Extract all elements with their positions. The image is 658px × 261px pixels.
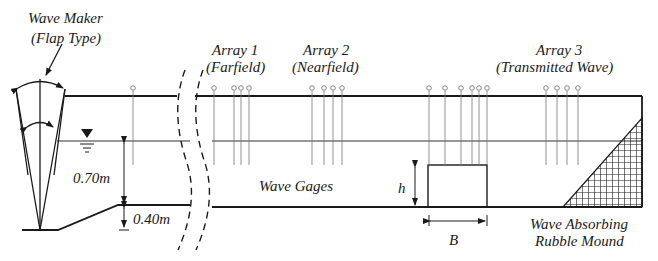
wave-gage-icon [544, 86, 549, 91]
dimension-b [429, 215, 487, 226]
submerged-structure [428, 165, 487, 207]
label-absorber-2: Rubble Mound [535, 233, 624, 249]
wave-gages [131, 86, 581, 165]
label-wave-gages: Wave Gages [259, 178, 333, 194]
tank-outline [22, 96, 642, 230]
wave-maker-icon [16, 44, 65, 230]
label-h: h [398, 180, 406, 196]
wave-gage-icon [212, 86, 217, 91]
wave-gage-icon [576, 86, 581, 91]
dimension-water-depth [119, 143, 129, 230]
wave-gage-icon [477, 86, 482, 91]
wave-gage-icon [459, 86, 464, 91]
wave-gage-icon [485, 86, 490, 91]
wave-gage-icon [239, 86, 244, 91]
label-array1-1: Array 1 [212, 42, 258, 58]
wave-gage-icon [443, 86, 448, 91]
label-step-height: 0.40m [133, 211, 170, 227]
label-wave-maker-1: Wave Maker [28, 10, 103, 26]
label-b: B [449, 232, 458, 248]
label-array3-2: (Transmitted Wave) [496, 59, 613, 75]
wave-gage-icon [340, 86, 345, 91]
label-water-depth: 0.70m [73, 170, 110, 186]
wave-gage-icon [427, 86, 432, 91]
break-lines [178, 70, 210, 250]
label-array2-1: Array 2 [303, 42, 349, 58]
wave-gage-icon [310, 86, 315, 91]
label-absorber-1: Wave Absorbing [530, 216, 628, 232]
label-array3-1: Array 3 [536, 42, 582, 58]
label-array2-2: (Nearfield) [292, 59, 359, 75]
wave-gage-icon [555, 86, 560, 91]
wave-gage-icon [131, 86, 136, 91]
wave-gage-icon [331, 86, 336, 91]
wave-gage-icon [232, 86, 237, 91]
rubble-mound [563, 118, 642, 207]
wave-gage-icon [247, 86, 252, 91]
wave-gage-icon [322, 86, 327, 91]
label-wave-maker-2: (Flap Type) [31, 30, 101, 46]
wave-gage-icon [565, 86, 570, 91]
wave-gage-icon [470, 86, 475, 91]
label-array1-2: (Farfield) [206, 59, 265, 75]
water-level-icon [80, 129, 94, 152]
